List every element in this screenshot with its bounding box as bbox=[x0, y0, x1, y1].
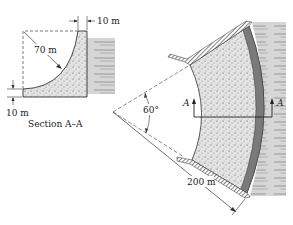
arch-dam-diagram: 70 m 10 m 10 m Section A–A bbox=[0, 0, 293, 225]
plan-view: 60° 200 m A A bbox=[113, 21, 286, 215]
section-base-height-label: 10 m bbox=[6, 108, 29, 118]
section-view: 70 m 10 m 10 m Section A–A bbox=[6, 16, 120, 129]
section-marker-right: A bbox=[276, 98, 284, 108]
section-top-width-label: 10 m bbox=[97, 16, 120, 26]
water-region-section bbox=[87, 38, 115, 94]
arrowhead-icon bbox=[192, 98, 196, 104]
arrowhead-icon bbox=[74, 20, 78, 23]
arrowhead-icon bbox=[12, 85, 15, 89]
radius-label: 200 m bbox=[187, 177, 216, 187]
arrowhead-icon bbox=[87, 20, 91, 23]
radial-line-lower bbox=[113, 112, 184, 157]
section-dam-body bbox=[23, 31, 87, 97]
angle-label: 60° bbox=[143, 105, 159, 115]
arrowhead-icon bbox=[12, 97, 15, 101]
section-marker-left: A bbox=[182, 98, 190, 108]
section-radius-label: 70 m bbox=[34, 45, 57, 55]
arrowhead-icon bbox=[56, 64, 62, 69]
section-title: Section A–A bbox=[28, 119, 83, 129]
